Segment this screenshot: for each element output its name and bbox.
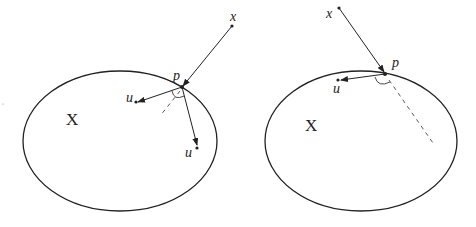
diagram-canvas: X x p u u X x p u <box>0 0 476 227</box>
right-figure: X x p u <box>265 6 457 211</box>
left-label-p: p <box>172 68 180 83</box>
left-label-x: x <box>229 9 237 24</box>
left-point-u1 <box>134 100 137 103</box>
right-set-label: X <box>305 116 317 135</box>
left-set-label: X <box>66 110 78 129</box>
left-label-u1: u <box>126 90 133 105</box>
left-set-boundary <box>23 71 217 211</box>
left-label-u2: u <box>185 145 192 160</box>
left-point-u2 <box>195 146 198 149</box>
left-point-x <box>230 24 233 27</box>
right-angle-arc <box>375 77 390 84</box>
right-point-x <box>337 6 340 9</box>
left-normal-dashed <box>160 91 180 116</box>
left-angle-arc <box>172 91 184 98</box>
right-x-to-p-arrow <box>339 8 384 72</box>
left-figure: X x p u u <box>23 9 237 211</box>
right-p-to-u-arrow <box>341 74 385 80</box>
left-p-to-u1-arrow <box>138 87 182 102</box>
speck <box>2 103 3 104</box>
right-label-x: x <box>325 6 333 21</box>
right-label-u: u <box>333 81 340 96</box>
left-x-to-p-arrow <box>183 26 232 86</box>
right-label-p: p <box>391 55 399 70</box>
right-set-boundary <box>265 71 457 211</box>
